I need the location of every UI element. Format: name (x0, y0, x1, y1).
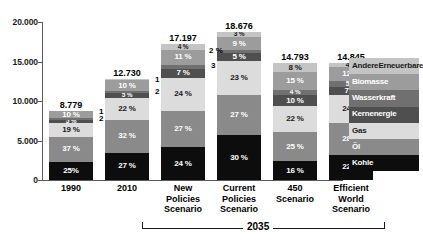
bar-segment-label: 7 % (176, 69, 189, 77)
bar-segment[interactable]: 27 % (105, 153, 149, 180)
legend: AndereErneuerbareBiomasseWasserkraftKern… (349, 58, 419, 171)
bar-segment-label: 10 % (286, 97, 303, 105)
bar-column[interactable]: 17.1974 %11 %3 %7 %24 %27 %24 % (161, 44, 205, 180)
bar-segment[interactable]: 22 % (105, 98, 149, 120)
legend-item[interactable]: AndereErneuerbare (349, 58, 419, 74)
bar-segment-label: 32 % (118, 132, 135, 140)
bracket-label-2035: 2035 (243, 221, 273, 232)
bar-segment[interactable]: 24 % (161, 78, 205, 111)
x-axis-category-line: Scenario (155, 204, 211, 215)
x-axis-category-label: NewPoliciesScenario (155, 183, 211, 215)
bar-total-label: 17.197 (161, 33, 205, 43)
x-axis-category-line: Scenario (211, 204, 267, 215)
stacked-bar[interactable]: 4 %11 %3 %7 %24 %27 %24 % (161, 44, 205, 180)
bar-segment[interactable]: 19 % (49, 123, 93, 136)
bar-segment-label: 37 % (62, 145, 79, 153)
stacked-bar[interactable]: 1 %10 %2 %5 %22 %32 %27 % (105, 79, 149, 180)
x-axis-category-line: Current (211, 183, 267, 194)
legend-item-label: Öl (352, 143, 360, 152)
bar-segment[interactable]: 10 % (49, 111, 93, 118)
bracket-tick-right (384, 222, 385, 229)
legend-item-label: Gas (352, 127, 367, 136)
bar-segment-label: 23 % (230, 74, 247, 82)
bar-segment[interactable]: 8 % (273, 63, 317, 72)
bar-segment[interactable]: 22 % (273, 106, 317, 132)
bar-segment[interactable]: 23 % (217, 61, 261, 95)
x-axis-category-label: EfficientWorldScenario (323, 183, 379, 215)
legend-item[interactable]: Kernenergie (349, 107, 419, 123)
bar-total-label: 12.730 (105, 68, 149, 78)
bar-segment[interactable]: 37 % (49, 137, 93, 163)
x-axis-category-line: 1990 (43, 183, 99, 194)
bar-segment-label: 27 % (230, 111, 247, 119)
legend-item-label: Wasserkraft (352, 94, 395, 103)
x-axis-category-line: Scenario (323, 204, 379, 215)
x-axis-category-line: Policies (155, 194, 211, 205)
x-axis-category-label: 2010 (99, 183, 155, 194)
legend-item-label: Erneuerbare (378, 62, 423, 71)
bar-segment[interactable]: 24 % (161, 147, 205, 180)
bar-segment[interactable]: 10 % (105, 80, 149, 90)
bar-column[interactable]: 8.7791 %10 %2 %5 %19 %37 %25% (49, 111, 93, 180)
bar-segment[interactable]: 27 % (217, 95, 261, 135)
y-axis-label: 10.000 (0, 96, 38, 106)
bar-segment[interactable]: 7 % (161, 69, 205, 79)
bar-segment[interactable]: 25% (49, 162, 93, 180)
stacked-bar-chart: 05.00010.00015.00020.000 8.7791 %10 %2 %… (0, 0, 423, 245)
bar-segment-label: 19 % (62, 126, 79, 134)
bar-segment-label: 10 % (118, 82, 135, 90)
bar-segment-label: 8 % (288, 64, 301, 72)
x-axis-category-line: World (323, 194, 379, 205)
stacked-bar[interactable]: 3 %9 %2 %5 %23 %27 %30 % (217, 32, 261, 180)
bar-segment-label: 22 % (118, 105, 135, 113)
y-axis-label: 0 (0, 175, 38, 185)
bar-segment[interactable]: 25 % (273, 132, 317, 161)
bar-segment[interactable]: 11 % (161, 50, 205, 65)
x-axis-line (42, 180, 343, 181)
bar-segment-label: 25 % (286, 143, 303, 151)
bar-segment-label: 24 % (174, 90, 191, 98)
y-axis-label: 5.000 (0, 136, 38, 146)
bracket-tick-left (142, 222, 143, 229)
bar-segment-label: 15 % (286, 77, 303, 85)
y-axis-label: 15.000 (0, 57, 38, 67)
bar-segment[interactable]: 10 % (273, 95, 317, 107)
bar-segment-label: 5 % (232, 53, 245, 60)
legend-item[interactable]: Gas (349, 123, 419, 139)
bar-segment-label: 10 % (62, 111, 79, 118)
legend-item[interactable]: Biomasse (349, 74, 419, 90)
bar-total-label: 14.793 (273, 52, 317, 62)
bar-segment[interactable]: 30 % (217, 135, 261, 180)
legend-item[interactable]: Kohle (349, 155, 419, 171)
x-axis-category-line: 2010 (99, 183, 155, 194)
bar-segment-label: 16 % (286, 167, 303, 175)
bar-segment-label: 27 % (118, 162, 135, 170)
x-axis-category-line: Scenario (267, 194, 323, 205)
bar-segment[interactable]: 32 % (105, 120, 149, 153)
stacked-bar[interactable]: 1 %10 %2 %5 %19 %37 %25% (49, 111, 93, 180)
bar-segment-label: 9 % (232, 40, 245, 48)
legend-item-label: Biomasse (352, 78, 388, 87)
x-axis-category-line: Policies (211, 194, 267, 205)
bar-column[interactable]: 14.7938 %15 %4 %10 %22 %25 %16 % (273, 63, 317, 180)
legend-item[interactable]: Wasserkraft (349, 90, 419, 106)
legend-item-label: Kernenergie (352, 110, 396, 119)
bar-segment[interactable]: 15 % (273, 72, 317, 90)
bar-total-label: 18.676 (217, 21, 261, 31)
x-axis-category-line: New (155, 183, 211, 194)
bar-segment[interactable]: 16 % (273, 161, 317, 180)
bar-segment[interactable]: 27 % (161, 111, 205, 148)
x-axis-category-label: 450Scenario (267, 183, 323, 204)
bar-column[interactable]: 12.7301 %10 %2 %5 %22 %32 %27 % (105, 79, 149, 180)
bar-segment[interactable]: 5 % (217, 53, 261, 60)
x-axis-category-line: 450 (267, 183, 323, 194)
bar-segment-label: 11 % (175, 53, 192, 61)
bar-column[interactable]: 18.6763 %9 %2 %5 %23 %27 %30 % (217, 32, 261, 180)
bar-segment-label: 22 % (286, 115, 303, 123)
legend-item-label: Andere (352, 62, 378, 71)
y-axis-label: 20.000 (0, 17, 38, 27)
bar-segment-label: 27 % (174, 125, 191, 133)
bar-segment[interactable]: 9 % (217, 37, 261, 50)
legend-item[interactable]: Öl (349, 139, 419, 155)
stacked-bar[interactable]: 8 %15 %4 %10 %22 %25 %16 % (273, 63, 317, 180)
